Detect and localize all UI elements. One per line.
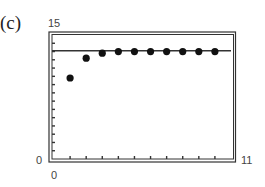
data-points (66, 48, 218, 82)
plot-frame (49, 32, 236, 162)
data-point (99, 50, 106, 57)
data-point (211, 48, 218, 55)
data-point (66, 74, 73, 81)
data-point (179, 48, 186, 55)
data-point (195, 48, 202, 55)
data-point (131, 48, 138, 55)
data-point (163, 48, 170, 55)
chart-plot (0, 0, 265, 187)
data-point (115, 48, 122, 55)
data-point (147, 48, 154, 55)
data-point (83, 55, 90, 62)
